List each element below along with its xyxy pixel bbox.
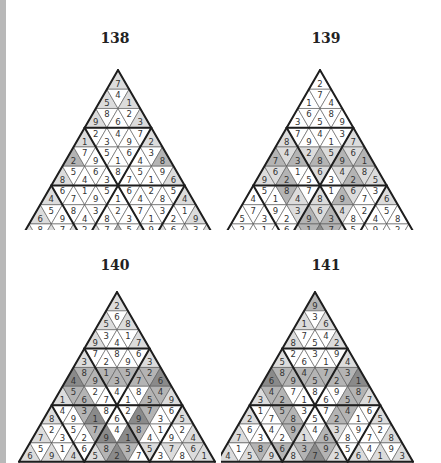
cell-digit: 5 xyxy=(147,395,152,405)
cell-digit: 6 xyxy=(171,225,176,230)
cell-digit: 4 xyxy=(182,194,187,204)
cell-digit: 1 xyxy=(306,225,311,230)
cell-digit: 2 xyxy=(126,109,131,119)
cell-digit: 7 xyxy=(317,90,322,100)
cell-digit: 5 xyxy=(71,425,76,435)
cell-digit: 2 xyxy=(280,433,285,443)
cell-digit: 3 xyxy=(82,406,87,416)
cell-digit: 4 xyxy=(345,357,350,367)
cell-digit: 1 xyxy=(82,137,87,147)
cell-digit: 3 xyxy=(103,331,108,341)
cell-digit: 8 xyxy=(284,137,289,147)
cell-digit: 1 xyxy=(126,98,131,108)
cell-digit: 4 xyxy=(317,129,322,139)
cell-digit: 9 xyxy=(103,433,108,443)
cell-digit: 1 xyxy=(306,98,311,108)
cell-digit: 8 xyxy=(114,349,119,359)
cell-digit: 9 xyxy=(169,433,174,443)
cell-digit: 8 xyxy=(115,167,120,177)
cell-digit: 5 xyxy=(306,175,311,185)
cell-digit: 3 xyxy=(340,129,345,139)
cell-digit: 3 xyxy=(114,376,119,386)
cell-digit: 4 xyxy=(269,387,274,397)
cell-digit: 9 xyxy=(136,414,141,424)
cell-digit: 5 xyxy=(71,387,76,397)
cell-digit: 9 xyxy=(306,214,311,224)
cell-digit: 8 xyxy=(125,319,130,329)
cell-digit: 7 xyxy=(323,368,328,378)
cell-digit: 1 xyxy=(328,137,333,147)
cell-digit: 4 xyxy=(82,214,87,224)
cell-digit: 8 xyxy=(356,387,361,397)
cell-digit: 7 xyxy=(115,79,120,89)
cell-digit: 3 xyxy=(295,156,300,166)
cell-digit: 9 xyxy=(149,225,154,230)
cell-digit: 1 xyxy=(60,444,65,454)
cell-digit: 9 xyxy=(373,225,378,230)
cell-digit: 2 xyxy=(171,214,176,224)
cell-digit: 4 xyxy=(295,194,300,204)
cell-digit: 3 xyxy=(312,349,317,359)
cell-digit: 8 xyxy=(351,214,356,224)
cell-digit: 9 xyxy=(312,301,317,311)
cell-digit: 4 xyxy=(373,214,378,224)
cell-digit: 1 xyxy=(125,395,130,405)
cell-digit: 7 xyxy=(328,225,333,230)
cell-digit: 4 xyxy=(115,90,120,100)
cell-digit: 3 xyxy=(158,414,163,424)
cell-digit: 4 xyxy=(115,129,120,139)
cell-digit: 3 xyxy=(258,395,263,405)
puzzle-138: 138 754198623123497227951643885463875196… xyxy=(10,0,220,220)
cell-digit: 6 xyxy=(351,148,356,158)
cell-digit: 2 xyxy=(93,129,98,139)
cell-digit: 6 xyxy=(115,117,120,127)
cell-digit: 7 xyxy=(291,387,296,397)
cell-digit: 8 xyxy=(71,206,76,216)
cell-digit: 6 xyxy=(356,451,361,461)
cell-digit: 4 xyxy=(82,175,87,185)
cell-digit: 8 xyxy=(291,338,296,348)
triangle-grid: 2174365898794137743285961962156342854518… xyxy=(221,0,431,230)
cell-digit: 6 xyxy=(301,357,306,367)
cell-digit: 8 xyxy=(389,433,394,443)
cell-digit: 8 xyxy=(103,444,108,454)
cell-digit: 9 xyxy=(93,376,98,386)
cell-digit: 6 xyxy=(351,186,356,196)
triangle-grid: 9136875425263194689457231342718695872175… xyxy=(221,232,431,463)
cell-digit: 1 xyxy=(262,225,267,230)
cell-digit: 4 xyxy=(191,433,196,443)
cell-digit: 7 xyxy=(312,451,317,461)
cell-digit: 2 xyxy=(180,425,185,435)
cell-digit: 2 xyxy=(71,156,76,166)
cell-digit: 5 xyxy=(345,395,350,405)
cell-digit: 2 xyxy=(284,175,289,185)
cell-digit: 6 xyxy=(126,148,131,158)
cell-digit: 8 xyxy=(60,175,65,185)
cell-digit: 5 xyxy=(171,186,176,196)
cell-digit: 9 xyxy=(340,156,345,166)
cell-digit: 3 xyxy=(295,206,300,216)
cell-digit: 2 xyxy=(125,406,130,416)
cell-digit: 9 xyxy=(126,137,131,147)
cell-digit: 2 xyxy=(334,414,339,424)
cell-digit: 6 xyxy=(126,186,131,196)
cell-digit: 8 xyxy=(280,368,285,378)
cell-digit: 2 xyxy=(147,368,152,378)
cell-digit: 7 xyxy=(138,206,143,216)
cell-digit: 8 xyxy=(136,387,141,397)
cell-digit: 6 xyxy=(306,109,311,119)
cell-digit: 3 xyxy=(160,206,165,216)
cell-digit: 4 xyxy=(367,444,372,454)
cell-digit: 1 xyxy=(60,395,65,405)
cell-digit: 9 xyxy=(49,451,54,461)
cell-digit: 4 xyxy=(328,98,333,108)
cell-digit: 2 xyxy=(82,433,87,443)
cell-digit: 1 xyxy=(182,206,187,216)
cell-digit: 8 xyxy=(291,414,296,424)
cell-digit: 7 xyxy=(236,433,241,443)
cell-digit: 4 xyxy=(138,156,143,166)
cell-digit: 6 xyxy=(60,186,65,196)
cell-digit: 1 xyxy=(356,376,361,386)
cell-digit: 4 xyxy=(323,331,328,341)
cell-digit: 2 xyxy=(334,376,339,386)
